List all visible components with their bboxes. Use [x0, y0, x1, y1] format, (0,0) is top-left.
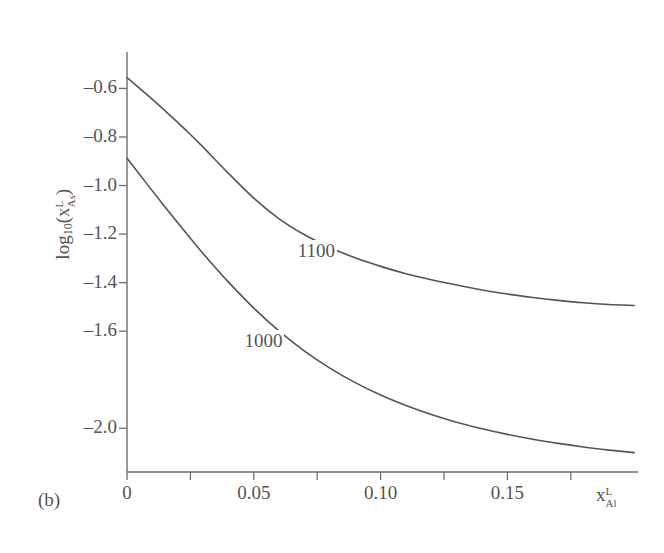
- x-tick-label: 0.10: [351, 482, 411, 504]
- x-tick-marks: [127, 472, 571, 480]
- axes-lines: [127, 52, 638, 472]
- figure-panel: 00.050.100.15 –0.6–0.8–1.0–1.2–1.4–1.6–2…: [0, 0, 664, 553]
- y-tick-label: –1.6: [55, 319, 117, 341]
- x-tick-label: 0.05: [224, 482, 284, 504]
- y-tick-marks: [119, 88, 127, 428]
- curve-label-1100: 1100: [296, 240, 337, 262]
- y-tick-label: –0.8: [55, 125, 117, 147]
- curve-label-1000: 1000: [242, 330, 284, 352]
- data-curves: [127, 77, 634, 452]
- curve-1100: [127, 77, 634, 305]
- y-axis-title-text: log10(xLAs): [52, 189, 73, 260]
- curve-1000: [127, 158, 634, 452]
- y-tick-label: –0.6: [55, 76, 117, 98]
- x-tick-label: 0.15: [477, 482, 537, 504]
- panel-label: (b): [38, 489, 60, 511]
- x-axis-title-text: xLAl: [596, 484, 617, 505]
- y-axis-title: log10(xLAs): [52, 154, 77, 294]
- y-tick-label: –2.0: [55, 416, 117, 438]
- x-tick-label: 0: [97, 482, 157, 504]
- x-axis-title: xLAl: [596, 484, 617, 508]
